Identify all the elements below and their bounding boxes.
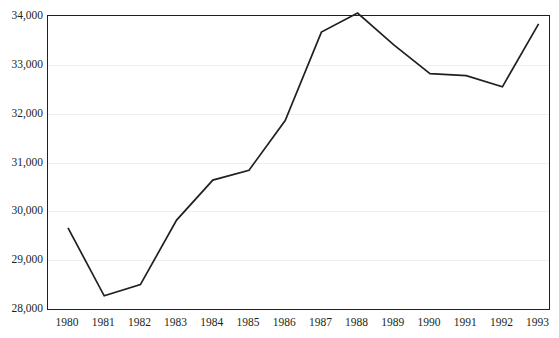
y-axis-tick-29000: 29,000 (1, 253, 47, 265)
y-axis-tick-34000: 34,000 (1, 9, 47, 21)
x-axis-tick-1990: 1990 (418, 316, 441, 328)
x-axis-tick-1991: 1991 (454, 316, 477, 328)
plot-area (47, 15, 550, 310)
y-axis-tick-28000: 28,000 (1, 302, 47, 314)
x-axis-tick-labels: 1980198119821983198419851986198719881989… (0, 316, 559, 336)
x-axis-tick-1986: 1986 (273, 316, 296, 328)
x-axis-tick-1980: 1980 (56, 316, 79, 328)
line-chart-figure: 34,00033,00032,00031,00030,00029,00028,0… (0, 0, 559, 338)
y-axis-tick-32000: 32,000 (1, 107, 47, 119)
series-line-svg (48, 16, 549, 309)
series-1-line (68, 13, 539, 296)
x-axis-tick-1984: 1984 (200, 316, 223, 328)
x-axis-tick-1992: 1992 (490, 316, 513, 328)
x-axis-tick-1988: 1988 (345, 316, 368, 328)
x-axis-tick-1993: 1993 (526, 316, 549, 328)
x-axis-tick-1987: 1987 (309, 316, 332, 328)
x-axis-tick-1981: 1981 (92, 316, 115, 328)
x-axis-tick-1989: 1989 (381, 316, 404, 328)
y-axis-tick-labels: 34,00033,00032,00031,00030,00029,00028,0… (0, 0, 47, 338)
x-axis-tick-1985: 1985 (237, 316, 260, 328)
y-axis-tick-30000: 30,000 (1, 204, 47, 216)
y-axis-tick-31000: 31,000 (1, 156, 47, 168)
y-axis-tick-33000: 33,000 (1, 58, 47, 70)
top-caption-clipped (0, 0, 559, 3)
x-axis-tick-1983: 1983 (164, 316, 187, 328)
x-axis-tick-1982: 1982 (128, 316, 151, 328)
